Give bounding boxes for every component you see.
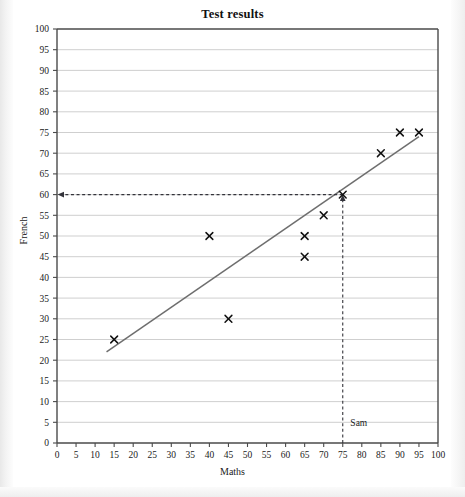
svg-text:15: 15 (109, 450, 119, 460)
scatter-plot: 0510152025303540455055606570758085909510… (0, 0, 465, 497)
svg-text:25: 25 (148, 450, 158, 460)
svg-text:70: 70 (319, 450, 329, 460)
svg-text:40: 40 (40, 273, 50, 283)
gridlines (57, 50, 438, 423)
svg-text:100: 100 (431, 450, 446, 460)
svg-text:75: 75 (40, 128, 50, 138)
svg-text:80: 80 (40, 107, 50, 117)
svg-text:60: 60 (281, 450, 291, 460)
svg-text:35: 35 (40, 294, 50, 304)
svg-text:95: 95 (414, 450, 424, 460)
svg-text:80: 80 (357, 450, 367, 460)
svg-text:65: 65 (40, 169, 50, 179)
svg-text:50: 50 (243, 450, 253, 460)
y-axis-ticks: 0510152025303540455055606570758085909510… (35, 24, 57, 448)
svg-text:20: 20 (128, 450, 138, 460)
svg-text:75: 75 (338, 450, 348, 460)
svg-text:30: 30 (40, 314, 50, 324)
line-of-best-fit (107, 137, 419, 352)
svg-text:0: 0 (55, 450, 60, 460)
svg-text:100: 100 (35, 24, 50, 34)
svg-text:40: 40 (205, 450, 215, 460)
svg-text:85: 85 (376, 450, 386, 460)
svg-text:5: 5 (74, 450, 79, 460)
scatter-graph-page: Test results 051015202530354045505560657… (0, 0, 465, 497)
svg-text:15: 15 (40, 376, 50, 386)
x-axis-ticks: 0510152025303540455055606570758085909510… (55, 443, 446, 460)
y-axis-label: French (18, 201, 29, 261)
svg-text:0: 0 (44, 438, 49, 448)
svg-text:55: 55 (40, 211, 50, 221)
svg-text:45: 45 (40, 252, 50, 262)
svg-text:55: 55 (262, 450, 272, 460)
svg-text:70: 70 (40, 149, 50, 159)
svg-text:10: 10 (40, 397, 50, 407)
x-axis-label: Maths (0, 466, 465, 477)
svg-text:90: 90 (395, 450, 405, 460)
svg-text:90: 90 (40, 66, 50, 76)
svg-text:35: 35 (186, 450, 196, 460)
sam-label: Sam (350, 418, 368, 428)
svg-text:85: 85 (40, 87, 50, 97)
svg-text:5: 5 (44, 418, 49, 428)
svg-text:25: 25 (40, 335, 50, 345)
svg-text:65: 65 (300, 450, 310, 460)
svg-text:50: 50 (40, 231, 50, 241)
sam-construction-lines (58, 192, 346, 443)
svg-text:20: 20 (40, 356, 50, 366)
svg-text:30: 30 (167, 450, 177, 460)
svg-text:60: 60 (40, 190, 50, 200)
svg-text:95: 95 (40, 45, 50, 55)
svg-text:10: 10 (90, 450, 100, 460)
svg-text:45: 45 (224, 450, 234, 460)
